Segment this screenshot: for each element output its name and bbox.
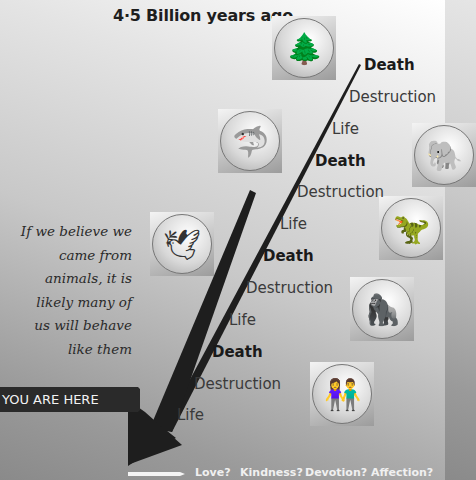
question-devotion: Devotion? [305, 466, 367, 479]
label-life-4: Life [177, 406, 204, 424]
label-death-1: Death [364, 56, 415, 74]
label-destruction-3: Destruction [246, 279, 333, 297]
label-destruction-4: Destruction [194, 375, 281, 393]
label-death-4: Death [212, 343, 263, 361]
quote-text: If we believe we came from animals, it i… [10, 220, 132, 361]
label-life-1: Life [332, 120, 359, 138]
label-death-3: Death [263, 247, 314, 265]
question-affection: Affection? [371, 466, 433, 479]
label-death-2: Death [315, 152, 366, 170]
label-destruction-1: Destruction [349, 88, 436, 106]
question-love: Love? [195, 466, 231, 479]
label-destruction-2: Destruction [297, 183, 384, 201]
you-are-here-banner: YOU ARE HERE [0, 387, 140, 412]
question-kindness: Kindness? [240, 466, 303, 479]
label-life-3: Life [229, 311, 256, 329]
label-life-2: Life [280, 215, 307, 233]
